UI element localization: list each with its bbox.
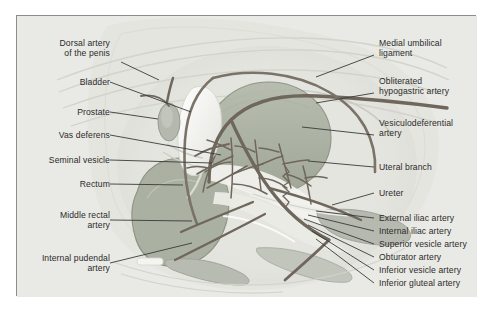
label-ureter: Ureter xyxy=(379,188,491,198)
label-dorsal-artery-of-the-penis: Dorsal artery of the penis xyxy=(22,38,110,59)
label-bladder: Bladder xyxy=(22,77,110,87)
label-external-iliac-artery: External iliac artery xyxy=(379,213,491,223)
prostate-organ xyxy=(158,103,180,141)
label-medial-umbilical-ligament: Medial umbilical ligament xyxy=(379,38,491,59)
label-obliterated-hypogastric-artery: Obliterated hypogastric artery xyxy=(379,76,491,97)
label-vas-deferens: Vas deferens xyxy=(16,130,110,140)
label-internal-pudendal-artery: Internal pudendal artery xyxy=(12,253,110,274)
label-uteral-branch: Uteral branch xyxy=(379,162,491,172)
anatomy-figure: Dorsal artery of the penis Bladder Prost… xyxy=(0,0,494,327)
label-inferior-gluteal-artery: Inferior gluteal artery xyxy=(379,278,494,288)
label-superior-vesicle-artery: Superior vesicle artery xyxy=(379,239,494,249)
label-prostate: Prostate xyxy=(22,107,110,117)
label-seminal-vesicle: Seminal vesicle xyxy=(16,155,110,165)
label-rectum: Rectum xyxy=(22,179,110,189)
label-internal-iliac-artery: Internal iliac artery xyxy=(379,226,491,236)
label-inferior-vesicle-artery: Inferior vesicle artery xyxy=(379,265,494,275)
label-obturator-artery: Obturator artery xyxy=(379,252,491,262)
label-vesiculodeferential-artery: Vesiculodeferential artery xyxy=(379,118,491,139)
label-middle-rectal-artery: Middle rectal artery xyxy=(16,210,110,231)
